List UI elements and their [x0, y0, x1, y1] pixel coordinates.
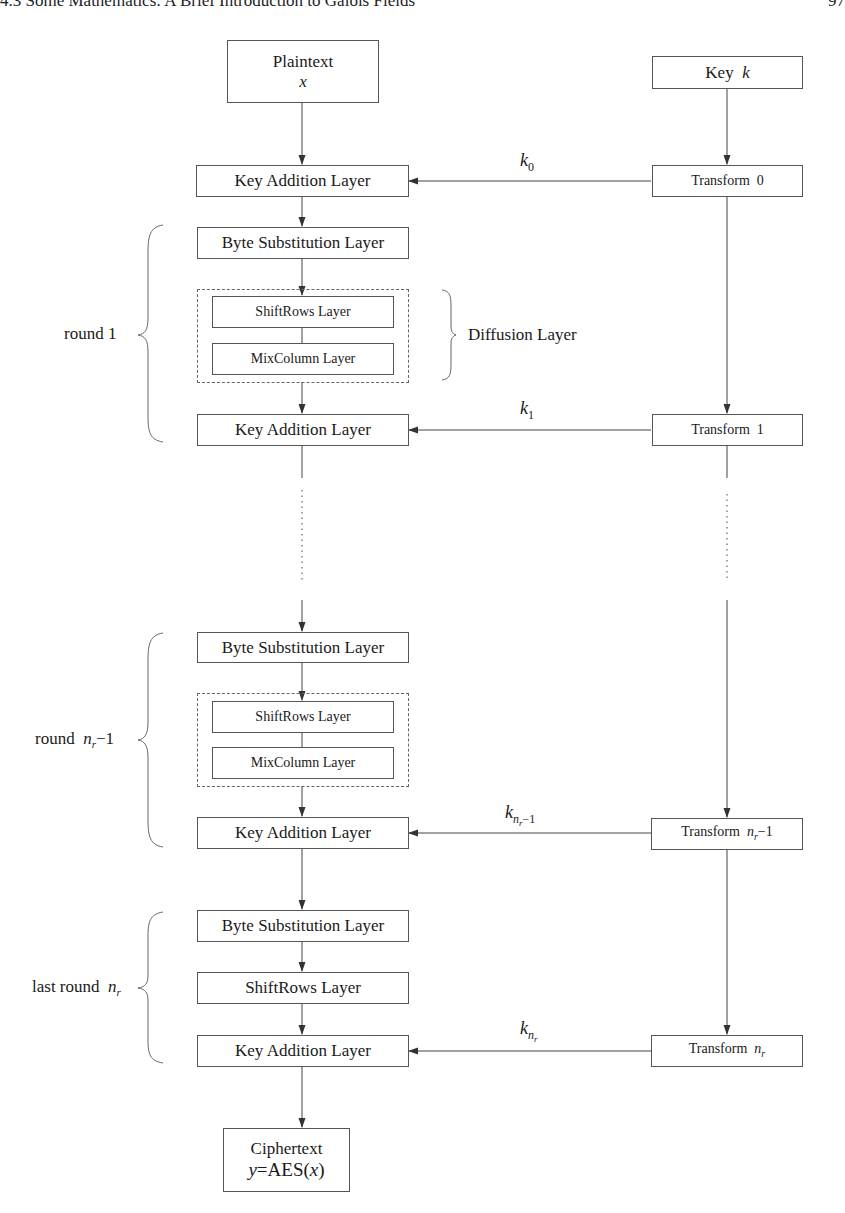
byte-substitution-layer-1: Byte Substitution Layer: [197, 227, 409, 259]
shiftrows-layer-nr-1: ShiftRows Layer: [212, 701, 394, 733]
transform-1: Transform 1: [652, 414, 803, 446]
ciphertext-formula: y=AES(x): [248, 1159, 324, 1181]
plaintext-label: Plaintext: [273, 52, 333, 72]
byte-substitution-layer-nr-1: Byte Substitution Layer: [197, 632, 409, 663]
ciphertext-box: Ciphertext y=AES(x): [223, 1128, 350, 1192]
last-round-label: last round nr: [32, 977, 121, 1000]
key-addition-layer-last: Key Addition Layer: [197, 1035, 409, 1067]
round-nr-1-label: round nr−1: [35, 729, 114, 752]
key-addition-layer-1: Key Addition Layer: [197, 414, 409, 446]
subkey-k1: k1: [520, 398, 534, 423]
key-var: k: [742, 63, 750, 82]
brace-last-round: [138, 912, 163, 1063]
brace-round-nr-1: [138, 633, 163, 847]
key-addition-layer-nr-1: Key Addition Layer: [197, 817, 409, 849]
subkey-k0: k0: [520, 150, 534, 175]
subkey-knr: knr: [520, 1018, 538, 1044]
plaintext-var: x: [299, 72, 307, 92]
brace-round-1: [138, 225, 163, 442]
shiftrows-layer-last: ShiftRows Layer: [197, 972, 409, 1004]
transform-0: Transform 0: [652, 165, 803, 197]
transform-nr-1: Transform nr−1: [651, 818, 803, 850]
mixcolumn-layer-nr-1: MixColumn Layer: [212, 747, 394, 779]
key-box: Key k: [652, 56, 803, 89]
key-label: Key: [705, 63, 733, 82]
diffusion-layer-label: Diffusion Layer: [468, 325, 577, 345]
brace-diffusion: [442, 290, 456, 380]
round-1-label: round 1: [64, 324, 116, 344]
shiftrows-layer-1: ShiftRows Layer: [212, 296, 394, 328]
subkey-knr-1: knr−1: [505, 802, 535, 828]
transform-nr: Transform nr: [651, 1035, 803, 1067]
key-addition-layer-0: Key Addition Layer: [196, 165, 409, 197]
ciphertext-label: Ciphertext: [251, 1139, 323, 1159]
byte-substitution-layer-last: Byte Substitution Layer: [197, 910, 409, 942]
plaintext-box: Plaintext x: [227, 40, 379, 103]
mixcolumn-layer-1: MixColumn Layer: [212, 343, 394, 375]
